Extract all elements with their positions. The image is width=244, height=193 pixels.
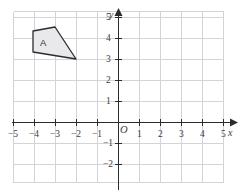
y-tick-label-4: 4 bbox=[106, 34, 111, 44]
y-tick-label-1: 1 bbox=[106, 97, 111, 107]
y-tick-label--1: −1 bbox=[103, 139, 113, 149]
x-tick-label-4: 4 bbox=[200, 130, 205, 140]
y-tick-label-3: 3 bbox=[106, 55, 111, 65]
x-tick-label--5: −5 bbox=[8, 130, 18, 140]
coordinate-grid-svg bbox=[0, 0, 244, 193]
x-tick-label--4: −4 bbox=[29, 130, 39, 140]
x-tick-label--2: −2 bbox=[71, 130, 81, 140]
y-axis bbox=[115, 8, 123, 190]
shape-label-a: A bbox=[40, 38, 46, 48]
y-axis-label: y bbox=[109, 10, 113, 20]
x-tick-label-1: 1 bbox=[137, 130, 142, 140]
x-axis-label: x bbox=[228, 128, 232, 138]
y-tick-label--2: −2 bbox=[103, 160, 113, 170]
x-tick-label-5: 5 bbox=[221, 130, 226, 140]
origin-label: O bbox=[120, 125, 128, 136]
y-tick-label-2: 2 bbox=[106, 76, 111, 86]
x-tick-label-2: 2 bbox=[158, 130, 163, 140]
x-tick-label--1: −1 bbox=[92, 130, 102, 140]
coordinate-plane-figure: −5 −4 −3 −2 −1 1 2 3 4 5 5 4 3 2 1 −1 −2… bbox=[0, 0, 244, 193]
x-tick-label-3: 3 bbox=[179, 130, 184, 140]
x-tick-label--3: −3 bbox=[50, 130, 60, 140]
